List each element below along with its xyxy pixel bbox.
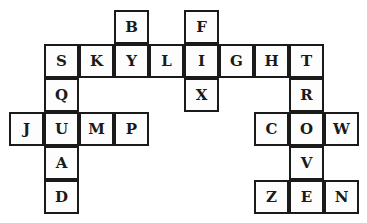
grid-cell-d: D bbox=[44, 180, 79, 214]
grid-cell-l: L bbox=[149, 44, 184, 78]
grid-cell-v: V bbox=[289, 146, 324, 180]
word-grid: BFSKYLIGHTQXRJUMPCOWAVDZEN bbox=[0, 0, 367, 223]
grid-cell-r: R bbox=[289, 78, 324, 112]
grid-cell-b: B bbox=[114, 10, 149, 44]
grid-cell-t: T bbox=[289, 44, 324, 78]
grid-cell-o: O bbox=[289, 112, 324, 146]
grid-cell-u: U bbox=[44, 112, 79, 146]
grid-cell-w: W bbox=[324, 112, 359, 146]
grid-cell-c: C bbox=[254, 112, 289, 146]
grid-cell-x: X bbox=[184, 78, 219, 112]
grid-cell-e: E bbox=[289, 180, 324, 214]
grid-cell-i: I bbox=[184, 44, 219, 78]
grid-cell-n: N bbox=[324, 180, 359, 214]
grid-cell-h: H bbox=[254, 44, 289, 78]
grid-cell-a: A bbox=[44, 146, 79, 180]
grid-cell-f: F bbox=[184, 10, 219, 44]
grid-cell-q: Q bbox=[44, 78, 79, 112]
grid-cell-y: Y bbox=[114, 44, 149, 78]
grid-cell-p: P bbox=[114, 112, 149, 146]
grid-cell-s: S bbox=[44, 44, 79, 78]
grid-cell-g: G bbox=[219, 44, 254, 78]
grid-cell-j: J bbox=[9, 112, 44, 146]
grid-cell-m: M bbox=[79, 112, 114, 146]
grid-cell-z: Z bbox=[254, 180, 289, 214]
grid-cell-k: K bbox=[79, 44, 114, 78]
